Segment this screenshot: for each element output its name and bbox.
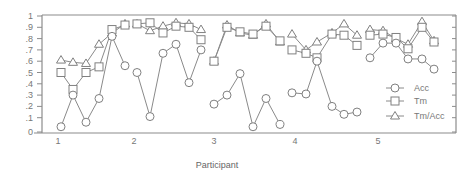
series-line [292,61,357,114]
y-tick-label: 1 [28,11,33,21]
circle-marker-icon [404,55,412,63]
triangle-marker-icon [197,25,206,33]
x-tick-label: 4 [292,136,297,146]
circle-marker-icon [108,32,116,40]
y-tick-label: 0 [28,127,33,137]
square-marker-icon [328,30,336,38]
circle-marker-icon [121,62,129,70]
square-marker-icon [172,22,180,30]
circle-marker-icon [302,90,310,98]
x-tick-label: 5 [375,136,380,146]
x-tick-label: 3 [211,136,216,146]
circle-marker-icon [69,91,77,99]
y-tick-label: .4 [25,79,33,89]
y-tick-label: .3 [25,90,33,100]
y-tick-label: .1 [25,113,33,123]
square-marker-icon [404,45,412,53]
triangle-marker-icon [313,37,322,45]
square-marker-icon [418,23,426,31]
circle-marker-icon [82,118,90,126]
square-marker-icon [353,41,361,49]
circle-marker-icon [146,113,154,121]
x-tick-label: 2 [131,136,136,146]
circle-marker-icon [353,108,361,116]
legend-label: Acc [414,83,430,93]
y-tick-label: .5 [25,68,33,78]
circle-marker-icon [313,57,321,65]
circle-marker-icon [340,110,348,118]
y-tick-label: .9 [25,22,33,32]
square-marker-icon [57,69,65,77]
square-marker-icon [262,22,270,30]
x-axis-title: Participant [196,160,239,170]
circle-marker-icon [379,39,387,47]
square-marker-icon [236,28,244,36]
circle-marker-icon [223,91,231,99]
circle-marker-icon [172,40,180,48]
square-marker-icon [133,20,141,28]
legend-item: Acc [386,83,430,93]
square-marker-icon [391,97,399,105]
square-marker-icon [210,57,218,65]
circle-marker-icon [328,102,336,110]
x-tick-label: 1 [55,136,60,146]
triangle-marker-icon [288,30,297,38]
legend-label: Tm [414,96,427,106]
circle-marker-icon [249,123,257,131]
square-marker-icon [249,30,257,38]
circle-marker-icon [185,79,193,87]
circle-marker-icon [288,89,296,97]
series-tm [57,19,438,94]
y-tick-label: .2 [25,101,33,111]
circle-marker-icon [236,70,244,78]
circle-marker-icon [391,84,399,92]
triangle-marker-icon [57,56,66,64]
square-marker-icon [185,23,193,31]
square-marker-icon [288,46,296,54]
y-tick-label: .8 [25,34,33,44]
y-tick-label: .6 [25,56,33,66]
series-acc [57,32,438,130]
x-axis: 12345 [55,136,380,146]
circle-marker-icon [392,39,400,47]
circle-marker-icon [197,46,205,54]
circle-marker-icon [57,123,65,131]
square-marker-icon [366,31,374,39]
legend-item: Tm [386,96,427,106]
chart-canvas: 0.1.2.3.4.5.6.7.8.91 12345 AccTmTm/Acc P… [0,0,475,178]
square-marker-icon [146,19,154,27]
square-marker-icon [82,69,90,77]
circle-marker-icon [366,54,374,62]
series-line [61,36,125,126]
square-marker-icon [379,30,387,38]
legend-label: Tm/Acc [414,111,445,121]
legend: AccTmTm/Acc [386,83,445,121]
circle-marker-icon [95,94,103,102]
circle-marker-icon [430,65,438,73]
circle-marker-icon [159,49,167,57]
square-marker-icon [276,37,284,45]
y-tick-label: .7 [25,45,33,55]
legend-item: Tm/Acc [386,111,445,121]
square-marker-icon [302,49,310,57]
circle-marker-icon [418,55,426,63]
square-marker-icon [121,21,129,29]
square-marker-icon [340,31,348,39]
circle-marker-icon [276,120,284,128]
square-marker-icon [159,29,167,37]
triangle-marker-icon [340,19,349,27]
square-marker-icon [95,63,103,71]
circle-marker-icon [133,69,141,77]
circle-marker-icon [210,100,218,108]
square-marker-icon [430,38,438,46]
triangle-marker-icon [391,112,400,120]
circle-marker-icon [262,94,270,102]
square-marker-icon [223,23,231,31]
square-marker-icon [197,36,205,44]
series-layer [57,17,439,131]
